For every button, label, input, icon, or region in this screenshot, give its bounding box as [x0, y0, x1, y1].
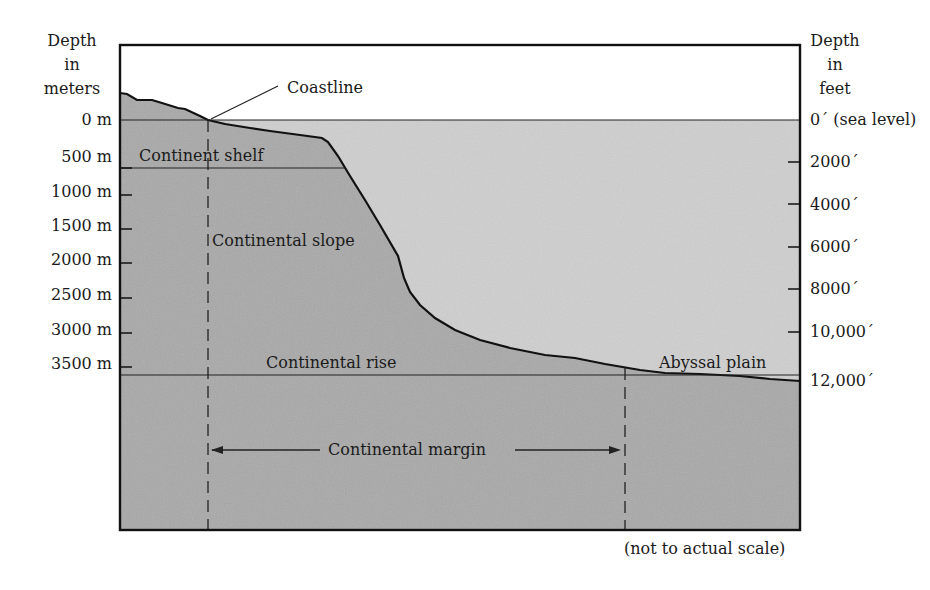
left-axis-title-line3: meters: [30, 80, 114, 98]
left-tick-1500: 1500 m: [20, 217, 112, 235]
left-tick-0: 0 m: [20, 111, 112, 129]
right-tick-10000: 10,000´: [810, 323, 874, 341]
left-axis-title-line1: Depth: [30, 32, 114, 50]
right-tick-sea-level: 0´ (sea level): [810, 111, 916, 129]
left-tick-3500: 3500 m: [20, 355, 112, 373]
left-tick-3000: 3000 m: [20, 321, 112, 339]
continental-rise-label: Continental rise: [266, 354, 396, 372]
continent-shelf-label: Continent shelf: [139, 147, 263, 165]
left-tick-2000: 2000 m: [20, 251, 112, 269]
continental-margin-label: Continental margin: [328, 441, 486, 459]
right-axis-title-line1: Depth: [800, 32, 870, 50]
scale-note: (not to actual scale): [624, 540, 785, 558]
right-tick-8000: 8000´: [810, 280, 859, 298]
left-tick-500: 500 m: [20, 148, 112, 166]
left-tick-2500: 2500 m: [20, 286, 112, 304]
right-tick-2000: 2000´: [810, 153, 859, 171]
coastline-label: Coastline: [287, 79, 363, 97]
coastline-pointer: [211, 86, 278, 119]
left-tick-1000: 1000 m: [20, 183, 112, 201]
right-tick-6000: 6000´: [810, 238, 859, 256]
continental-slope-label: Continental slope: [212, 232, 355, 250]
ocean-profile-diagram: [0, 0, 930, 590]
right-axis-title-line2: in: [800, 56, 870, 74]
right-tick-4000: 4000´: [810, 196, 859, 214]
left-axis-title-line2: in: [30, 56, 114, 74]
right-tick-12000: 12,000´: [810, 372, 874, 390]
right-axis-title-line3: feet: [800, 80, 870, 98]
abyssal-plain-label: Abyssal plain: [659, 354, 766, 372]
